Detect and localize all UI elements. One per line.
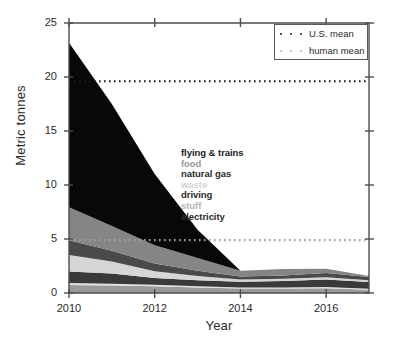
x-tick-label: 2012	[135, 302, 175, 314]
chart-legend: U.S. mean human mean	[274, 24, 368, 60]
legend-dot	[280, 50, 282, 52]
y-tick-label: 0	[33, 286, 57, 298]
series-annotation-flying-trains: flying & trains	[181, 148, 244, 159]
chart-figure: Metric tonnes Year 0510152025 2010201220…	[0, 0, 395, 344]
legend-label: human mean	[309, 45, 364, 56]
legend-dot	[290, 33, 292, 35]
dotted-line-swatch-icon	[280, 45, 302, 56]
legend-dot	[280, 33, 282, 35]
dotted-line-swatch-icon	[280, 28, 302, 39]
series-annotation-labels: flying & trainsfoodnatural gaswastedrivi…	[181, 148, 244, 222]
y-tick-label: 5	[33, 232, 57, 244]
x-axis-label: Year	[169, 318, 269, 333]
series-annotation-stuff: stuff	[181, 201, 244, 212]
legend-item-us-mean: U.S. mean	[275, 25, 367, 42]
legend-dot	[300, 50, 302, 52]
x-tick-label: 2010	[49, 302, 89, 314]
legend-dot	[290, 50, 292, 52]
legend-item-human-mean: human mean	[275, 42, 367, 59]
y-tick-label: 10	[33, 178, 57, 190]
y-tick-label: 15	[33, 124, 57, 136]
legend-label: U.S. mean	[309, 28, 354, 39]
x-tick-label: 2014	[220, 302, 260, 314]
y-axis-label: Metric tonnes	[13, 66, 28, 186]
x-tick-label: 2016	[306, 302, 346, 314]
legend-dot	[300, 33, 302, 35]
y-tick-label: 20	[33, 70, 57, 82]
y-tick-label: 25	[33, 16, 57, 28]
series-annotation-electricity: electricity	[181, 212, 244, 223]
